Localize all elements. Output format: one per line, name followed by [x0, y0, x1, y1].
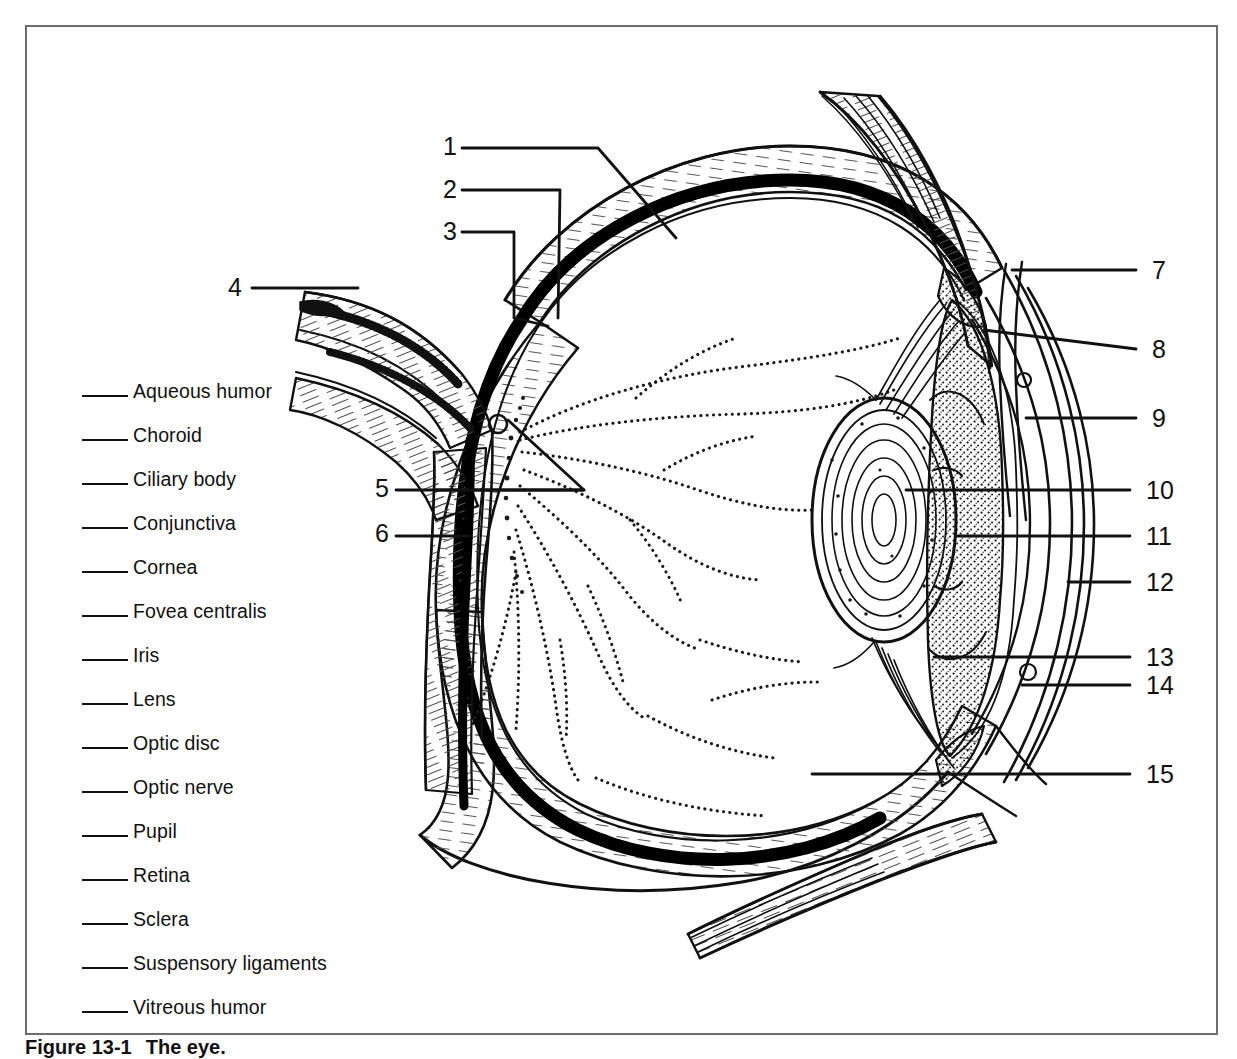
term-label: Lens — [133, 690, 176, 709]
term-label: Optic nerve — [133, 778, 234, 797]
callout-number-9[interactable]: 9 — [1152, 406, 1166, 431]
term-row[interactable]: Ciliary body — [82, 470, 382, 514]
callout-number-11[interactable]: 11 — [1146, 524, 1172, 549]
term-label: Ciliary body — [133, 470, 236, 489]
term-answer-blank[interactable] — [82, 954, 128, 969]
term-answer-blank[interactable] — [82, 514, 128, 529]
term-answer-blank[interactable] — [82, 690, 128, 705]
term-label: Conjunctiva — [133, 514, 236, 533]
figure-caption-number: Figure 13-1 — [25, 1036, 132, 1058]
term-row[interactable]: Lens — [82, 690, 382, 734]
callout-number-10[interactable]: 10 — [1146, 478, 1174, 503]
callout-number-15[interactable]: 15 — [1146, 762, 1174, 787]
callout-number-6[interactable]: 6 — [375, 521, 389, 546]
callout-number-1[interactable]: 1 — [443, 134, 457, 159]
callout-number-2[interactable]: 2 — [443, 177, 457, 202]
term-row[interactable]: Fovea centralis — [82, 602, 382, 646]
term-label: Sclera — [133, 910, 189, 929]
term-row[interactable]: Cornea — [82, 558, 382, 602]
term-row[interactable]: Sclera — [82, 910, 382, 954]
figure-caption-text: The eye. — [146, 1036, 226, 1058]
term-label: Choroid — [133, 426, 202, 445]
term-row[interactable]: Choroid — [82, 426, 382, 470]
term-label: Fovea centralis — [133, 602, 267, 621]
term-matching-list: Aqueous humor Choroid Ciliary body Conju… — [82, 382, 382, 1042]
term-answer-blank[interactable] — [82, 602, 128, 617]
term-row[interactable]: Aqueous humor — [82, 382, 382, 426]
callout-number-4[interactable]: 4 — [228, 275, 242, 300]
term-row[interactable]: Iris — [82, 646, 382, 690]
term-row[interactable]: Pupil — [82, 822, 382, 866]
term-answer-blank[interactable] — [82, 778, 128, 793]
term-row[interactable]: Conjunctiva — [82, 514, 382, 558]
term-answer-blank[interactable] — [82, 822, 128, 837]
term-answer-blank[interactable] — [82, 998, 128, 1013]
term-label: Aqueous humor — [133, 382, 272, 401]
term-row[interactable]: Suspensory ligaments — [82, 954, 382, 998]
term-answer-blank[interactable] — [82, 470, 128, 485]
callout-number-3[interactable]: 3 — [443, 219, 457, 244]
term-label: Pupil — [133, 822, 177, 841]
term-answer-blank[interactable] — [82, 734, 128, 749]
term-answer-blank[interactable] — [82, 558, 128, 573]
term-answer-blank[interactable] — [82, 426, 128, 441]
callout-number-7[interactable]: 7 — [1152, 258, 1166, 283]
term-answer-blank[interactable] — [82, 910, 128, 925]
figure-caption: Figure 13-1The eye. — [25, 1036, 226, 1059]
callout-number-13[interactable]: 13 — [1146, 645, 1174, 670]
callout-number-14[interactable]: 14 — [1146, 673, 1174, 698]
term-row[interactable]: Retina — [82, 866, 382, 910]
callout-number-12[interactable]: 12 — [1146, 570, 1174, 595]
term-label: Retina — [133, 866, 190, 885]
term-answer-blank[interactable] — [82, 866, 128, 881]
term-label: Iris — [133, 646, 159, 665]
term-row[interactable]: Optic nerve — [82, 778, 382, 822]
term-label: Vitreous humor — [133, 998, 266, 1017]
term-label: Optic disc — [133, 734, 220, 753]
term-row[interactable]: Optic disc — [82, 734, 382, 778]
callout-number-5[interactable]: 5 — [375, 476, 389, 501]
term-label: Suspensory ligaments — [133, 954, 327, 973]
callout-number-8[interactable]: 8 — [1152, 337, 1166, 362]
term-answer-blank[interactable] — [82, 646, 128, 661]
term-answer-blank[interactable] — [82, 382, 128, 397]
term-label: Cornea — [133, 558, 198, 577]
